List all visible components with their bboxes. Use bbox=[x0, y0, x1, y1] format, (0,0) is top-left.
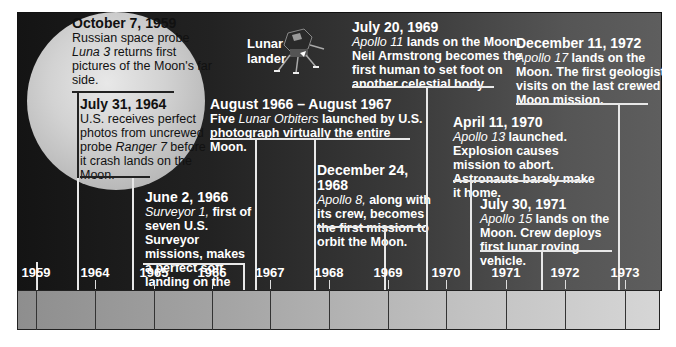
year-label-1971: 1971 bbox=[492, 265, 521, 280]
connector-line-1971 bbox=[541, 250, 543, 290]
year-tick bbox=[212, 280, 213, 289]
event-apollo-11: July 20, 1969 Apollo 11 lands on the Moo… bbox=[352, 20, 522, 91]
year-label-1969: 1969 bbox=[374, 265, 403, 280]
year-tick bbox=[565, 280, 566, 289]
event-date: August 1966 – August 1967 bbox=[210, 97, 425, 112]
event-description: U.S. receives perfect photos from uncrew… bbox=[80, 112, 210, 182]
event-date: December 24, 1968 bbox=[317, 163, 432, 193]
bar-divider bbox=[212, 290, 213, 330]
year-tick bbox=[388, 280, 389, 289]
year-label-1970: 1970 bbox=[432, 265, 461, 280]
year-tick bbox=[270, 280, 271, 289]
event-description: Five Lunar Orbiters launched by U.S. pho… bbox=[210, 112, 425, 154]
bar-divider bbox=[270, 290, 271, 330]
event-rule bbox=[453, 180, 588, 182]
event-date: July 30, 1971 bbox=[480, 197, 620, 212]
year-tick bbox=[446, 280, 447, 289]
event-rule bbox=[210, 138, 410, 140]
event-surveyor-1: June 2, 1966 Surveyor 1, first of seven … bbox=[145, 190, 255, 303]
year-tick bbox=[95, 280, 96, 289]
event-description: Apollo 15 lands on the Moon. Crew deploy… bbox=[480, 212, 620, 268]
year-label-1972: 1972 bbox=[551, 265, 580, 280]
year-tick bbox=[329, 280, 330, 289]
lander-label-line1: Lunar bbox=[247, 36, 283, 51]
event-description: Apollo 17 lands on the Moon. The first g… bbox=[516, 51, 666, 107]
bar-divider bbox=[36, 290, 37, 330]
year-label-1973: 1973 bbox=[611, 265, 640, 280]
bar-divider bbox=[154, 290, 155, 330]
year-tick bbox=[154, 280, 155, 289]
event-rule bbox=[352, 86, 494, 88]
year-label-1967: 1967 bbox=[256, 265, 285, 280]
event-description: Surveyor 1, first of seven U.S. Surveyor… bbox=[145, 205, 255, 303]
event-description: Russian space probe Luna 3 returns first… bbox=[72, 31, 212, 87]
year-tick bbox=[625, 280, 626, 289]
year-label-1959: 1959 bbox=[22, 265, 51, 280]
event-rule bbox=[80, 176, 150, 178]
event-rule bbox=[72, 91, 174, 93]
event-rule bbox=[317, 226, 425, 228]
event-date: October 7, 1959 bbox=[72, 16, 212, 31]
connector-line-1969 bbox=[426, 86, 428, 290]
event-lunar-orbiters: August 1966 – August 1967 Five Lunar Orb… bbox=[210, 97, 425, 154]
connector-line-1968 bbox=[384, 226, 386, 290]
lunar-lander-label: Lunar lander bbox=[247, 36, 286, 66]
year-label-1965: 1965 bbox=[140, 265, 169, 280]
event-date: July 20, 1969 bbox=[352, 20, 522, 35]
connector-line-1970 bbox=[470, 180, 472, 290]
year-tick bbox=[36, 280, 37, 289]
event-apollo-17: December 11, 1972 Apollo 17 lands on the… bbox=[516, 36, 666, 107]
event-apollo-13: April 11, 1970 Apollo 13 launched. Explo… bbox=[453, 115, 603, 200]
year-tick bbox=[506, 280, 507, 289]
event-date: June 2, 1966 bbox=[145, 190, 255, 205]
bar-divider bbox=[506, 290, 507, 330]
bar-divider bbox=[565, 290, 566, 330]
connector-line-1972 bbox=[618, 103, 620, 290]
year-label-1966: 1966 bbox=[198, 265, 227, 280]
event-description: Apollo 11 lands on the Moon. Neil Armstr… bbox=[352, 35, 522, 91]
event-apollo-8: December 24, 1968 Apollo 8, along with i… bbox=[317, 163, 432, 249]
event-description: Apollo 13 launched. Explosion causes mis… bbox=[453, 130, 603, 200]
bar-divider bbox=[95, 290, 96, 330]
event-date: July 31, 1964 bbox=[80, 97, 210, 112]
bar-divider bbox=[329, 290, 330, 330]
event-luna-3: October 7, 1959 Russian space probe Luna… bbox=[72, 16, 212, 87]
event-date: December 11, 1972 bbox=[516, 36, 666, 51]
event-apollo-15: July 30, 1971 Apollo 15 lands on the Moo… bbox=[480, 197, 620, 268]
year-label-1968: 1968 bbox=[315, 265, 344, 280]
bar-divider bbox=[625, 290, 626, 330]
connector-line-1966 bbox=[243, 263, 245, 290]
event-date: April 11, 1970 bbox=[453, 115, 603, 130]
event-ranger-7: July 31, 1964 U.S. receives perfect phot… bbox=[80, 97, 210, 182]
event-description: Apollo 8, along with its crew, becomes t… bbox=[317, 193, 432, 249]
connector-line-1964 bbox=[77, 178, 79, 290]
bar-divider bbox=[388, 290, 389, 330]
year-label-1964: 1964 bbox=[81, 265, 110, 280]
event-rule bbox=[516, 103, 648, 105]
connector-line-1965 bbox=[132, 178, 134, 290]
timeline-bar bbox=[17, 290, 660, 330]
connector-line bbox=[77, 92, 79, 178]
bar-divider bbox=[446, 290, 447, 330]
event-rule bbox=[480, 250, 612, 252]
lander-label-line2: lander bbox=[247, 51, 286, 66]
